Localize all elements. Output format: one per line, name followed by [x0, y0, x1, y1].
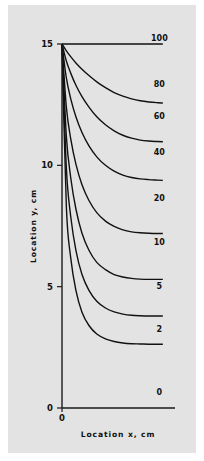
curve-label-80: 80 [154, 80, 166, 89]
curve-label-60: 60 [154, 112, 166, 121]
y-tick-label-10: 10 [41, 160, 53, 170]
curve-label-20: 20 [154, 194, 166, 203]
chart-plot-area: 051015 0 1008060402010520 Location x, cm… [0, 0, 204, 461]
y-tick-label-15: 15 [41, 39, 53, 49]
axes-group [62, 44, 175, 408]
y-tick-label-0: 0 [47, 403, 53, 413]
curve-labels-group: 1008060402010520 [151, 34, 168, 397]
curve-label-0: 0 [157, 388, 163, 397]
curve-60 [62, 44, 163, 142]
y-tick-label-5: 5 [47, 282, 53, 292]
curves-group [62, 44, 163, 344]
y-axis-title: Location y, cm [29, 189, 38, 263]
y-axis-ticks-group: 051015 [41, 39, 62, 413]
curve-label-100: 100 [151, 34, 168, 43]
x-tick-label-0: 0 [59, 413, 65, 423]
curve-label-10: 10 [154, 238, 166, 247]
x-axis-title: Location x, cm [81, 430, 156, 439]
curve-label-5: 5 [157, 282, 163, 291]
curve-label-40: 40 [154, 148, 166, 157]
curve-80 [62, 44, 163, 103]
figure-container: 051015 0 1008060402010520 Location x, cm… [0, 0, 204, 461]
x-axis-ticks-group: 0 [59, 408, 65, 423]
curve-label-2: 2 [157, 325, 163, 334]
curve-20 [62, 44, 163, 234]
curve-10 [62, 44, 163, 279]
